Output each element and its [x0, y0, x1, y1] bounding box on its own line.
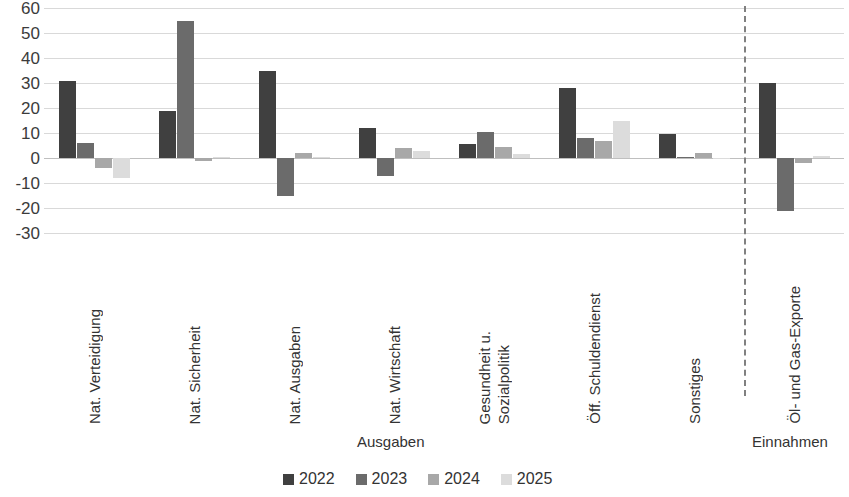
- y-axis-tick-label: 50: [0, 25, 40, 42]
- y-axis-tick-label: -10: [0, 175, 40, 192]
- category-label: Nat. Wirtschaft: [386, 326, 403, 424]
- bar-2025: [413, 151, 430, 159]
- legend-item-2023[interactable]: 2023: [356, 471, 408, 487]
- category-label-cell: Nat. Verteidigung: [44, 234, 144, 424]
- bar-2025: [113, 158, 130, 178]
- bar-2024: [195, 158, 212, 161]
- category-label: Gesundheit u.: [476, 331, 493, 424]
- bar-chart: 6050403020100-10-20-30 Nat. Verteidigung…: [0, 0, 849, 497]
- y-axis-tick-label: -20: [0, 200, 40, 217]
- category-label-cell: Nat. Wirtschaft: [344, 234, 444, 424]
- category-label-cell: Nat. Sicherheit: [144, 234, 244, 424]
- category-label: Sonstiges: [686, 358, 703, 424]
- bar-2025: [713, 158, 730, 159]
- category-label: Nat. Verteidigung: [86, 309, 103, 424]
- plot-area: [44, 8, 844, 233]
- legend-label: 2024: [444, 471, 480, 487]
- bar-2022: [359, 128, 376, 158]
- bar-group: [544, 8, 644, 233]
- bar-group: [144, 8, 244, 233]
- category-label: Sozialpolitik: [495, 345, 512, 424]
- y-axis-tick-label: 0: [0, 150, 40, 167]
- bar-2022: [459, 144, 476, 158]
- y-axis-tick-label: 20: [0, 100, 40, 117]
- bar-groups: [44, 8, 844, 233]
- bar-2024: [595, 141, 612, 159]
- y-axis-tick-label: 60: [0, 0, 40, 17]
- bar-2024: [495, 147, 512, 158]
- section-label-ausgaben: Ausgaben: [357, 433, 425, 450]
- legend-swatch-icon: [428, 474, 439, 485]
- bar-2024: [695, 153, 712, 158]
- bar-2025: [813, 156, 830, 159]
- y-axis-tick-label: 30: [0, 75, 40, 92]
- y-axis-tick-label: -30: [0, 225, 40, 242]
- legend-item-2024[interactable]: 2024: [428, 471, 480, 487]
- legend-swatch-icon: [501, 474, 512, 485]
- category-label-cell: Gesundheit u.Sozialpolitik: [444, 234, 544, 424]
- category-label: Nat. Ausgaben: [286, 326, 303, 424]
- bar-2025: [213, 157, 230, 158]
- bar-group: [744, 8, 844, 233]
- bar-2022: [559, 88, 576, 158]
- category-label-cell: Sonstiges: [644, 234, 744, 424]
- category-label: Öff. Schuldendienst: [586, 293, 603, 424]
- legend-label: 2023: [372, 471, 408, 487]
- bar-group: [244, 8, 344, 233]
- bar-2022: [259, 71, 276, 159]
- legend-swatch-icon: [356, 474, 367, 485]
- bar-2023: [77, 143, 94, 158]
- chart-legend: 2022202320242025: [283, 471, 552, 487]
- bar-group: [444, 8, 544, 233]
- legend-item-2025[interactable]: 2025: [501, 471, 553, 487]
- category-label-cell: Nat. Ausgaben: [244, 234, 344, 424]
- legend-label: 2025: [517, 471, 553, 487]
- category-axis-labels: Nat. VerteidigungNat. SicherheitNat. Aus…: [44, 234, 844, 424]
- bar-group: [644, 8, 744, 233]
- bar-2024: [395, 148, 412, 158]
- bar-2025: [313, 157, 330, 158]
- legend-item-2022[interactable]: 2022: [283, 471, 335, 487]
- bar-2024: [95, 158, 112, 168]
- bar-2023: [377, 158, 394, 176]
- bar-2025: [513, 154, 530, 158]
- legend-swatch-icon: [283, 474, 294, 485]
- y-axis: 6050403020100-10-20-30: [0, 0, 40, 240]
- category-label-cell: Öl- und Gas-Exporte: [744, 234, 844, 424]
- category-label: Öl- und Gas-Exporte: [786, 286, 803, 424]
- bar-2024: [295, 153, 312, 158]
- bar-2024: [795, 158, 812, 163]
- bar-2022: [759, 83, 776, 158]
- bar-group: [44, 8, 144, 233]
- bar-2022: [59, 81, 76, 159]
- section-label-einnahmen: Einnahmen: [752, 433, 828, 450]
- category-label-cell: Öff. Schuldendienst: [544, 234, 644, 424]
- y-axis-tick-label: 40: [0, 50, 40, 67]
- y-axis-tick-label: 10: [0, 125, 40, 142]
- bar-2022: [159, 111, 176, 159]
- bar-2023: [277, 158, 294, 196]
- bar-group: [344, 8, 444, 233]
- legend-label: 2022: [299, 471, 335, 487]
- bar-2023: [177, 21, 194, 159]
- bar-2025: [613, 121, 630, 159]
- bar-2023: [777, 158, 794, 211]
- bar-2022: [659, 134, 676, 158]
- bar-2023: [577, 138, 594, 158]
- bar-2023: [477, 132, 494, 158]
- category-label: Nat. Sicherheit: [186, 326, 203, 424]
- bar-2023: [677, 157, 694, 158]
